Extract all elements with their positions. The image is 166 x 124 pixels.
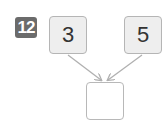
arrows xyxy=(0,0,166,124)
arrow-left-icon xyxy=(68,55,101,80)
answer-box[interactable] xyxy=(86,82,124,120)
arrow-right-icon xyxy=(108,55,142,80)
